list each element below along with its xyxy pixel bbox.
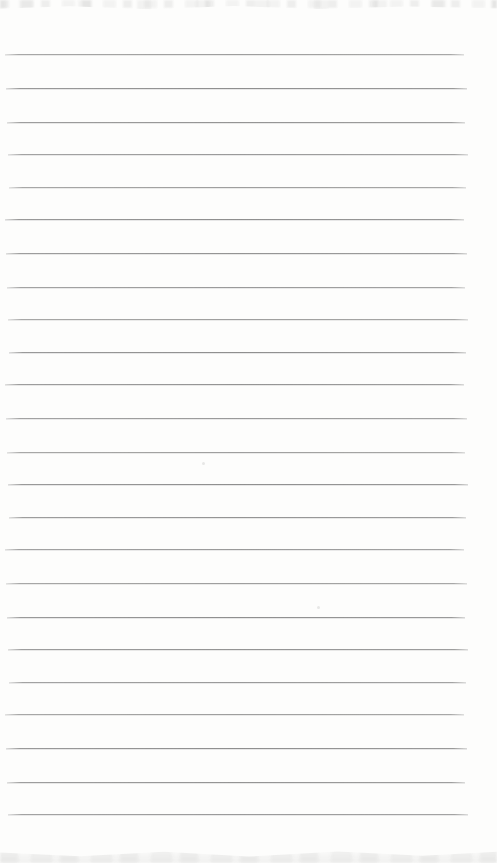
scan-speck (202, 462, 205, 465)
ruled-line (7, 287, 465, 288)
ruled-line (9, 517, 466, 518)
scan-speck (317, 606, 320, 609)
ruled-line (7, 617, 465, 618)
ruled-line (8, 319, 468, 320)
ruled-line (6, 418, 467, 419)
ruled-line (5, 54, 464, 55)
ruled-line (9, 352, 466, 353)
ruled-line (6, 253, 467, 254)
ruled-line (8, 649, 468, 650)
ruled-line (5, 384, 464, 385)
ruled-line (8, 154, 468, 155)
ruled-line (6, 583, 467, 584)
ruled-line (9, 682, 466, 683)
ruled-line (6, 748, 467, 749)
bottom-edge-scan-artifact (0, 847, 497, 863)
ruled-line (8, 484, 468, 485)
ruled-line (8, 814, 468, 815)
ruled-line (5, 549, 464, 550)
top-edge-scan-artifact (0, 0, 497, 12)
ruled-line (7, 122, 465, 123)
ruled-line (5, 219, 464, 220)
ruled-line (9, 187, 466, 188)
ruled-line (7, 452, 465, 453)
ruled-line (7, 782, 465, 783)
ruled-line (6, 88, 467, 89)
ruled-line (5, 714, 464, 715)
notebook-page (0, 0, 497, 863)
